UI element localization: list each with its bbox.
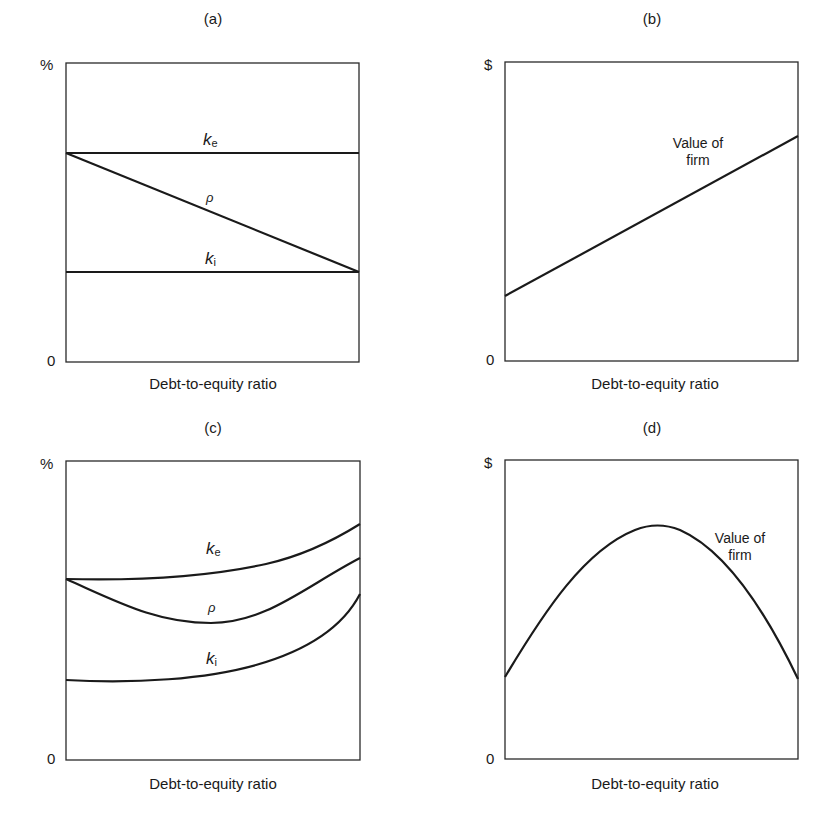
panel-b-frame [505,62,798,361]
panel-d-curve-label: Value offirm [700,530,780,564]
panel-d-origin-label: 0 [486,750,494,767]
panel-b-title: (b) [602,10,702,27]
panel-c-ke-label: ke [206,540,221,561]
panel-b-value-of-firm-line [505,136,798,296]
panel-d-x-axis-label: Debt-to-equity ratio [505,775,805,792]
panel-a-title: (a) [163,10,263,27]
panel-c-rho-label: ρ [208,599,215,616]
panel-c-ki-label: ki [206,650,217,671]
panel-b-curve-label: Value offirm [658,135,738,169]
panel-a-y-axis-label: % [40,56,53,73]
panel-c-origin-label: 0 [47,750,55,767]
panel-d-title: (d) [602,419,702,436]
panel-c-title: (c) [163,419,263,436]
panel-d-plot [505,460,799,760]
panel-a-ki-label: ki [205,250,216,271]
panel-c-y-axis-label: % [40,455,53,472]
panel-a-x-axis-label: Debt-to-equity ratio [63,375,363,392]
panel-d-y-axis-label: $ [484,454,492,471]
panel-a-plot [66,63,360,363]
panel-b-y-axis-label: $ [484,56,492,73]
panel-a-rho-label: ρ [206,189,213,206]
panel-a-origin-label: 0 [47,352,55,369]
panel-b-origin-label: 0 [486,351,494,368]
panel-b-x-axis-label: Debt-to-equity ratio [505,375,805,392]
panel-b-plot [505,62,799,362]
panel-a-ke-label: ke [203,131,218,152]
panel-c-x-axis-label: Debt-to-equity ratio [63,775,363,792]
